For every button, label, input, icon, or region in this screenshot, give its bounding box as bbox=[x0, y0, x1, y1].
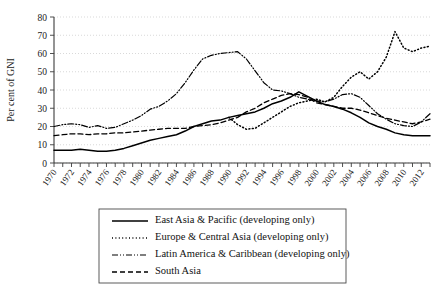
x-tick-label: 1988 bbox=[198, 167, 217, 188]
x-axis-ticks: 1970197219741976197819801982198419861988… bbox=[40, 163, 430, 188]
chart-page: 01020304050607080 1970197219741976197819… bbox=[0, 0, 436, 290]
chart-legend: East Asia & Pacific (developing only)Eur… bbox=[99, 209, 350, 283]
legend-label-1: Europe & Central Asia (developing only) bbox=[155, 231, 329, 243]
x-tick-label: 2008 bbox=[372, 167, 391, 188]
x-tick-label: 2012 bbox=[407, 167, 426, 187]
x-tick-label: 1974 bbox=[75, 167, 94, 188]
x-tick-label: 2006 bbox=[355, 167, 374, 188]
line-chart: 01020304050607080 1970197219741976197819… bbox=[0, 0, 436, 290]
y-tick-label: 60 bbox=[38, 49, 48, 59]
series-line-2 bbox=[54, 52, 430, 129]
x-tick-label: 2000 bbox=[302, 167, 321, 188]
y-axis-title: Per cent of GNI bbox=[5, 58, 16, 122]
x-tick-label: 2004 bbox=[337, 167, 356, 188]
y-tick-label: 80 bbox=[38, 13, 48, 23]
x-tick-label: 1982 bbox=[145, 167, 164, 187]
legend-label-2: Latin America & Caribbean (developing on… bbox=[155, 248, 350, 260]
y-tick-label: 20 bbox=[38, 122, 48, 132]
legend-label-0: East Asia & Pacific (developing only) bbox=[155, 214, 315, 226]
series-line-0 bbox=[54, 92, 430, 151]
x-tick-label: 1972 bbox=[58, 167, 77, 187]
x-tick-label: 1978 bbox=[110, 167, 129, 188]
x-tick-label: 2002 bbox=[320, 167, 339, 187]
x-tick-label: 1994 bbox=[250, 167, 269, 188]
x-tick-label: 1992 bbox=[232, 167, 251, 187]
series-line-1 bbox=[229, 32, 430, 130]
y-tick-label: 30 bbox=[38, 104, 48, 114]
x-tick-label: 1970 bbox=[40, 167, 59, 188]
x-tick-label: 1984 bbox=[163, 167, 182, 188]
y-axis-ticks: 01020304050607080 bbox=[38, 13, 55, 169]
y-tick-label: 70 bbox=[38, 31, 48, 41]
gridlines bbox=[54, 17, 430, 163]
y-tick-label: 40 bbox=[38, 86, 48, 96]
x-tick-label: 1996 bbox=[267, 167, 286, 188]
x-tick-label: 1980 bbox=[128, 167, 147, 188]
y-tick-label: 10 bbox=[38, 140, 48, 150]
legend-label-3: South Asia bbox=[155, 265, 201, 276]
x-tick-label: 2010 bbox=[390, 167, 409, 188]
x-tick-label: 1986 bbox=[180, 167, 199, 188]
y-tick-label: 0 bbox=[42, 159, 47, 169]
x-tick-label: 1990 bbox=[215, 167, 234, 188]
x-tick-label: 1976 bbox=[93, 167, 112, 188]
y-tick-label: 50 bbox=[38, 67, 48, 77]
x-tick-label: 1998 bbox=[285, 167, 304, 188]
data-series-group bbox=[54, 32, 430, 152]
